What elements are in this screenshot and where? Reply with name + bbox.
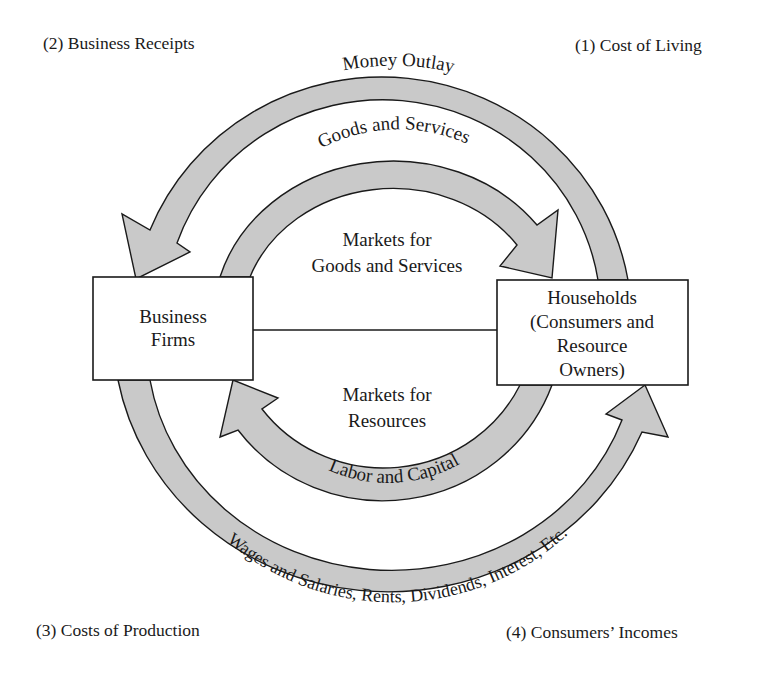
business-receipts-label: (2) Business Receipts xyxy=(43,33,195,54)
goods-services-label: Goods and Services xyxy=(314,112,474,152)
costs-of-production-label: (3) Costs of Production xyxy=(36,620,200,641)
money-outlay-label: Money Outlay xyxy=(341,49,457,77)
households-label-1: Households xyxy=(547,287,637,308)
goods-market-label-1: Markets for xyxy=(342,229,432,250)
households-label-3: Resource xyxy=(557,335,628,356)
households-label-4: Owners) xyxy=(559,359,624,381)
cost-of-living-label: (1) Cost of Living xyxy=(575,35,702,56)
business-firms-label-2: Firms xyxy=(151,329,195,350)
incomes-label: Wages and Salaries, Rents, Dividends, In… xyxy=(224,522,571,606)
goods-market-label-2: Goods and Services xyxy=(312,255,463,276)
resource-market-label-1: Markets for xyxy=(342,384,432,405)
business-firms-label-1: Business xyxy=(139,306,207,327)
households-label-2: (Consumers and xyxy=(530,311,655,333)
resource-market-label-2: Resources xyxy=(348,410,426,431)
circular-flow-diagram: Business Firms Households (Consumers and… xyxy=(0,0,783,674)
consumers-incomes-label: (4) Consumers’ Incomes xyxy=(506,622,678,643)
